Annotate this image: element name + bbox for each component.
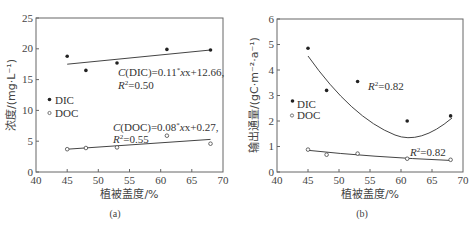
data-point xyxy=(325,153,329,157)
y-tick-labels-a: 0 5 10 15 20 25 xyxy=(22,12,34,178)
data-point xyxy=(165,134,169,138)
legend-a: DIC DOC xyxy=(48,94,79,120)
y-tick-label: 4 xyxy=(269,64,275,76)
y-tick-label: 15 xyxy=(22,73,34,85)
doc-r2-b: R2=0.82 xyxy=(409,146,446,158)
dic-marker-icon xyxy=(291,99,295,103)
x-tick-label: 45 xyxy=(303,174,315,186)
panel-caption-a: (a) xyxy=(109,208,120,220)
y-tick-label: 3 xyxy=(269,89,275,101)
data-point xyxy=(306,148,310,152)
y-tick-label: 10 xyxy=(22,104,34,116)
data-point xyxy=(306,47,310,51)
y-tick-labels-b: 0 1 2 3 4 5 6 xyxy=(269,13,275,178)
y-tick-label: 5 xyxy=(269,38,275,50)
data-point xyxy=(325,89,329,93)
x-tick-label: 65 xyxy=(186,174,198,186)
doc-r2: R2=0.55 xyxy=(112,133,149,145)
legend-label-doc: DOC xyxy=(55,107,78,119)
panel-a: 0 5 10 15 20 25 40 45 50 55 60 65 70 植被盖… xyxy=(4,12,229,221)
x-axis-label-b: 植被盖度/% xyxy=(341,187,399,201)
data-point xyxy=(356,80,360,84)
x-tick-label: 50 xyxy=(334,174,346,186)
x-tick-labels-a: 40 45 50 55 60 65 70 xyxy=(31,174,230,186)
data-point xyxy=(115,61,119,65)
y-tick-label: 20 xyxy=(22,42,34,54)
x-tick-label: 55 xyxy=(124,174,136,186)
legend-b: DIC DOC xyxy=(290,98,320,121)
x-tick-label: 60 xyxy=(396,174,408,186)
x-tick-label: 65 xyxy=(427,174,439,186)
x-axis-label-a: 植被盖度/% xyxy=(100,187,158,201)
data-point xyxy=(115,146,119,150)
x-tick-label: 55 xyxy=(365,174,377,186)
x-tick-label: 40 xyxy=(272,174,284,186)
data-point xyxy=(405,157,409,161)
doc-marker-icon xyxy=(290,114,293,117)
y-tick-label: 2 xyxy=(269,115,275,127)
x-tick-label: 45 xyxy=(62,174,74,186)
y-axis-label-a: 浓度/(mg·L⁻¹) xyxy=(4,59,18,131)
panel-b: 0 1 2 3 4 5 6 40 45 50 55 60 65 70 植被盖度/… xyxy=(247,13,469,221)
data-point xyxy=(65,54,69,58)
y-tick-label: 25 xyxy=(22,12,34,24)
dic-equation: C(DIC)=0.11*xx+12.66, xyxy=(118,66,225,79)
x-tick-label: 40 xyxy=(31,174,43,186)
dic-marker-icon xyxy=(48,98,52,102)
panel-caption-b: (b) xyxy=(356,208,368,220)
doc-marker-icon xyxy=(48,111,51,114)
data-point xyxy=(449,158,453,162)
data-point xyxy=(65,147,69,151)
dic-fit-curve-b xyxy=(308,56,452,138)
data-point xyxy=(209,48,213,52)
x-tick-label: 70 xyxy=(218,174,230,186)
y-tick-label: 6 xyxy=(269,13,275,25)
x-tick-labels-b: 40 45 50 55 60 65 70 xyxy=(272,174,470,186)
data-point xyxy=(84,69,88,73)
y-tick-label: 1 xyxy=(269,140,275,152)
legend-label-doc: DOC xyxy=(297,109,320,121)
data-point xyxy=(165,48,169,52)
x-tick-label: 50 xyxy=(93,174,105,186)
data-point xyxy=(405,119,409,123)
data-point xyxy=(209,142,213,146)
figure: 0 5 10 15 20 25 40 45 50 55 60 65 70 植被盖… xyxy=(0,0,473,228)
y-axis-label-b: 输出通量/(gC·m⁻²·a⁻¹) xyxy=(247,37,261,153)
legend-label-dic: DIC xyxy=(55,94,74,106)
data-point xyxy=(356,152,360,156)
doc-equation-a: C(DOC)=0.08*xx+0.27, R2=0.55 xyxy=(112,121,219,145)
data-point xyxy=(84,146,88,150)
dic-r2-b: R2=0.82 xyxy=(367,80,404,92)
data-point xyxy=(449,114,453,118)
x-tick-label: 60 xyxy=(155,174,167,186)
dic-r2: R2=0.50 xyxy=(117,79,154,91)
x-tick-label: 70 xyxy=(458,174,470,186)
dic-equation-a: C(DIC)=0.11*xx+12.66, R2=0.50 xyxy=(117,66,225,91)
y-tick-label: 5 xyxy=(28,135,34,147)
dic-fit-line-a xyxy=(67,50,210,64)
